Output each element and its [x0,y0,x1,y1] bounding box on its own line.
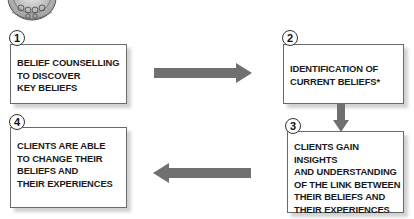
step-3-text: CLIENTS GAIN INSIGHTS AND UNDERSTANDING … [294,141,403,217]
step-1-number-badge: 1 [9,30,25,46]
step-4-box: CLIENTS ARE ABLE TO CHANGE THEIR BELIEFS… [10,127,127,208]
step-2-text: IDENTIFICATION OF CURRENT BELIEFS* [290,63,380,88]
step-2-number-badge: 2 [282,30,298,46]
step-3-number-badge: 3 [285,118,301,134]
step-4-number-badge: 4 [9,114,25,130]
step-3-box: CLIENTS GAIN INSIGHTS AND UNDERSTANDING … [287,131,404,213]
step-2-box: IDENTIFICATION OF CURRENT BELIEFS* [283,44,404,104]
arrow-right-icon [154,62,254,84]
arrow-left-icon [153,162,253,184]
arrow-down-icon [333,104,349,132]
emblem-logo-icon [4,0,60,22]
step-4-text: CLIENTS ARE ABLE TO CHANGE THEIR BELIEFS… [17,140,113,190]
step-1-text: BELIEF COUNSELLING TO DISCOVER KEY BELIE… [17,57,119,95]
step-1-box: BELIEF COUNSELLING TO DISCOVER KEY BELIE… [10,44,127,104]
